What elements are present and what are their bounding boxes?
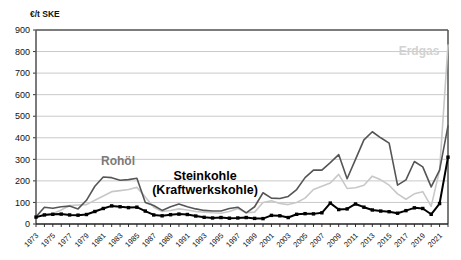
data-point-marker [329, 201, 332, 204]
data-point-marker [387, 210, 390, 213]
data-point-marker [144, 209, 147, 212]
data-point-marker [236, 216, 239, 219]
data-point-marker [102, 207, 105, 210]
y-axis-unit-label: €/t SKE [30, 9, 60, 19]
y-tick-label: 700 [15, 68, 30, 78]
data-point-marker [354, 202, 357, 205]
series-label-rohoel: Rohöl [101, 154, 135, 168]
data-point-marker [93, 210, 96, 213]
data-point-marker [438, 202, 441, 205]
data-point-marker [446, 155, 449, 158]
data-point-marker [43, 213, 46, 216]
data-point-marker [413, 206, 416, 209]
data-point-marker [320, 211, 323, 214]
data-point-marker [404, 209, 407, 212]
chart-container: 0100200300400500600700800900 19731975197… [0, 0, 461, 260]
data-point-marker [202, 216, 205, 219]
price-trend-line-chart: 0100200300400500600700800900 19731975197… [0, 0, 461, 260]
data-point-marker [110, 204, 113, 207]
data-point-marker [152, 213, 155, 216]
y-tick-label: 100 [15, 198, 30, 208]
series-label-steinkohle-sub: (Kraftwerkskohle) [152, 183, 258, 197]
data-point-marker [429, 213, 432, 216]
data-point-marker [85, 213, 88, 216]
data-point-marker [312, 212, 315, 215]
y-tick-label: 200 [15, 176, 30, 186]
y-tick-label: 900 [15, 25, 30, 35]
data-point-marker [194, 214, 197, 217]
data-point-marker [278, 214, 281, 217]
data-point-marker [169, 213, 172, 216]
y-tick-label: 600 [15, 90, 30, 100]
data-point-marker [135, 205, 138, 208]
data-point-marker [228, 216, 231, 219]
data-point-marker [295, 213, 298, 216]
series-label-erdgas: Erdgas [399, 44, 440, 58]
y-tick-label: 300 [15, 155, 30, 165]
y-tick-label: 800 [15, 47, 30, 57]
data-point-marker [287, 216, 290, 219]
data-point-marker [211, 216, 214, 219]
data-point-marker [253, 217, 256, 220]
data-point-marker [371, 208, 374, 211]
data-point-marker [160, 214, 163, 217]
data-point-marker [345, 207, 348, 210]
data-point-marker [261, 217, 264, 220]
data-point-marker [337, 208, 340, 211]
data-point-marker [177, 212, 180, 215]
series-label-steinkohle: Steinkohle [173, 169, 236, 183]
data-point-marker [303, 212, 306, 215]
data-point-marker [76, 213, 79, 216]
data-point-marker [379, 209, 382, 212]
y-tick-label: 500 [15, 111, 30, 121]
data-point-marker [186, 213, 189, 216]
data-point-marker [421, 207, 424, 210]
y-tick-label: 0 [25, 219, 30, 229]
data-point-marker [362, 205, 365, 208]
y-tick-label: 400 [15, 133, 30, 143]
data-point-marker [270, 214, 273, 217]
data-point-marker [118, 205, 121, 208]
data-point-marker [34, 215, 37, 218]
data-point-marker [396, 212, 399, 215]
data-point-marker [127, 206, 130, 209]
data-point-marker [51, 213, 54, 216]
data-point-marker [68, 213, 71, 216]
data-point-marker [60, 212, 63, 215]
data-point-marker [219, 216, 222, 219]
data-point-marker [245, 216, 248, 219]
chart-background [0, 0, 461, 260]
